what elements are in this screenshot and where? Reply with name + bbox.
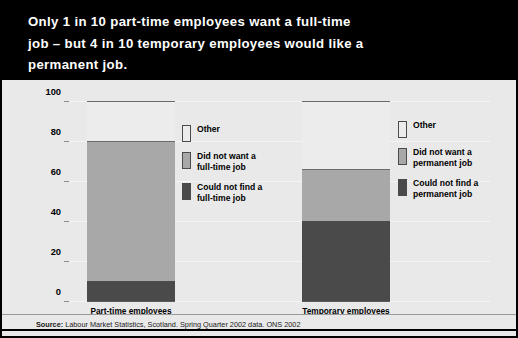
legend-swatch-other [182,125,191,142]
plot-area: Percentage giving specified reason for t… [2,80,516,336]
chart-figure: Only 1 in 10 part-time employees want a … [0,0,518,338]
part-time-legend: Other Did not want a full-time job Could… [182,124,262,213]
bar-temporary-employees[interactable]: Temporary employees [302,102,390,302]
legend-label-did-not-want: Did not want a full-time job [197,151,256,173]
footer-rule [2,329,516,331]
tick-mark-80 [64,141,69,142]
legend-item[interactable]: Could not find a full-time job [182,182,262,204]
source-text: Source: Labour Market Statistics, Scotla… [36,320,516,329]
legend-item[interactable]: Did not want a permanent job [398,147,478,169]
source-body: Labour Market Statistics, Scotland. Spri… [63,320,300,329]
legend-item[interactable]: Could not find a permanent job [398,178,478,200]
temporary-legend: Other Did not want a permanent job Could… [398,120,478,209]
tick-label-100: 100 [45,87,61,97]
legend-item[interactable]: Did not want a full-time job [182,151,262,173]
bar-segment-could-not-find[interactable] [87,281,175,301]
tick-mark-60 [64,181,69,182]
tick-mark-40 [64,221,69,222]
bar-segment-did-not-want[interactable] [87,141,175,281]
bar-segment-could-not-find[interactable] [302,221,390,301]
legend-swatch-other [398,121,407,138]
chart-title: Only 1 in 10 part-time employees want a … [28,11,494,76]
legend-swatch-could-not-find [398,179,407,196]
tick-mark-100 [64,101,69,102]
tick-label-40: 40 [51,207,61,217]
legend-swatch-did-not-want [398,148,407,165]
bar-segment-other[interactable] [302,101,390,169]
tick-mark-0 [64,301,69,302]
tick-label-80: 80 [51,127,61,137]
legend-label-did-not-want: Did not want a permanent job [413,147,472,169]
legend-label-other: Other [197,124,220,135]
legend-swatch-did-not-want [182,152,191,169]
bar-part-time-employees[interactable]: Part-time employees [87,102,175,302]
title-banner: Only 1 in 10 part-time employees want a … [2,2,516,80]
legend-label-other: Other [413,120,436,131]
legend-swatch-could-not-find [182,183,191,200]
legend-label-could-not-find: Could not find a permanent job [413,178,478,200]
tick-label-20: 20 [51,247,61,257]
tick-label-0: 0 [56,287,61,297]
tick-mark-20 [64,261,69,262]
legend-item[interactable]: Other [182,124,262,142]
bar-segment-other[interactable] [87,101,175,141]
tick-label-60: 60 [51,167,61,177]
source-footer: Source: Labour Market Statistics, Scotla… [2,314,516,336]
source-label: Source: [36,320,63,329]
bar-segment-did-not-want[interactable] [302,169,390,221]
legend-label-could-not-find: Could not find a full-time job [197,182,262,204]
legend-item[interactable]: Other [398,120,478,138]
